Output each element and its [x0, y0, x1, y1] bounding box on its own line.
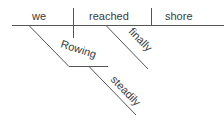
sentence-diagram: we reached shore Rowing steadily finally — [0, 0, 224, 124]
participle-adverb-word: steadily — [109, 73, 144, 109]
verb-adverb-word: finally — [127, 25, 156, 54]
object-word: shore — [165, 10, 193, 22]
subject-word: we — [31, 10, 46, 22]
verb-word: reached — [89, 10, 129, 22]
participle-word: Rowing — [59, 37, 98, 60]
